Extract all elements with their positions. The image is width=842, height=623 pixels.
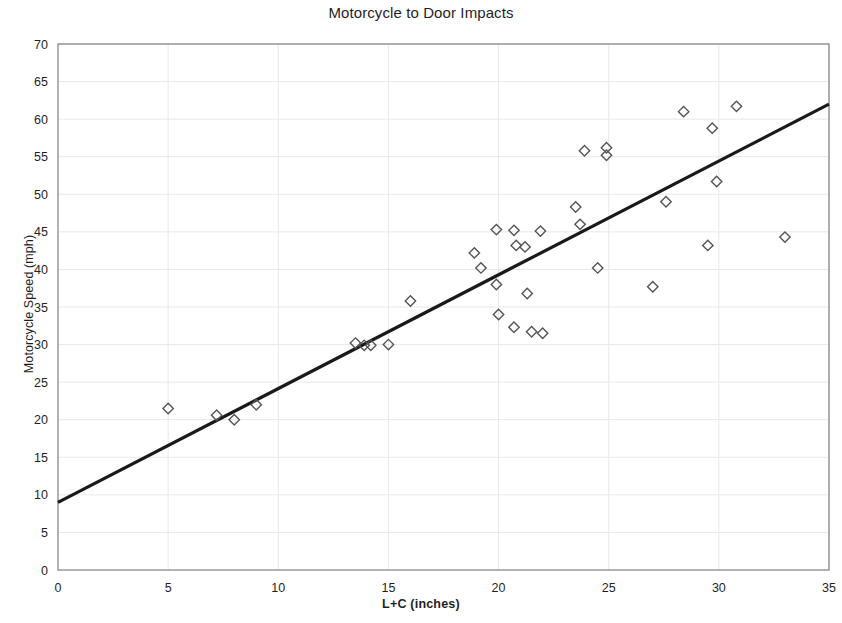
y-tick-label: 50 <box>34 188 48 202</box>
y-tick-label: 30 <box>34 338 48 352</box>
y-tick-label: 15 <box>34 451 48 465</box>
y-tick-label: 25 <box>34 376 48 390</box>
data-point-marker <box>526 327 536 337</box>
data-point-marker <box>491 224 501 234</box>
data-point-marker <box>491 279 501 289</box>
x-tick-label: 5 <box>165 581 172 595</box>
data-point-marker <box>711 176 721 186</box>
data-point-marker <box>469 248 479 258</box>
data-point-marker <box>678 106 688 116</box>
data-point-marker <box>522 288 532 298</box>
y-tick-label: 65 <box>34 75 48 89</box>
data-point-marker <box>537 328 547 338</box>
chart-container: Motorcycle to Door Impacts 0510152025303… <box>0 0 842 623</box>
data-point-marker <box>579 146 589 156</box>
data-point-marker <box>535 226 545 236</box>
x-tick-label: 10 <box>271 581 285 595</box>
trendline-path <box>58 104 829 502</box>
y-tick-label: 10 <box>34 488 48 502</box>
data-point-marker <box>780 232 790 242</box>
y-tick-label: 20 <box>34 413 48 427</box>
data-point-marker <box>509 322 519 332</box>
x-axis-label: L+C (inches) <box>0 597 842 611</box>
x-tick-label: 30 <box>712 581 726 595</box>
data-point-marker <box>405 296 415 306</box>
y-tick-label: 55 <box>34 150 48 164</box>
grid-lines <box>58 44 829 570</box>
x-tick-label: 15 <box>381 581 395 595</box>
data-point-marker <box>707 123 717 133</box>
x-tick-label: 25 <box>602 581 616 595</box>
y-tick-label: 35 <box>34 301 48 315</box>
x-tick-label: 0 <box>55 581 62 595</box>
y-tick-label: 70 <box>34 38 48 52</box>
data-point-marker <box>593 263 603 273</box>
y-tick-label: 5 <box>41 526 48 540</box>
data-point-marker <box>601 150 611 160</box>
y-axis-label: Motorcycle Speed (mph) <box>22 154 36 454</box>
y-tick-label: 45 <box>34 225 48 239</box>
data-point-marker <box>570 202 580 212</box>
data-point-marker <box>476 263 486 273</box>
data-point-marker <box>601 142 611 152</box>
y-tick-label: 60 <box>34 113 48 127</box>
x-tick-label: 35 <box>822 581 836 595</box>
x-axis-ticks: 05101520253035 <box>55 581 836 595</box>
trendline <box>58 104 829 502</box>
data-points <box>163 101 790 425</box>
data-point-marker <box>661 197 671 207</box>
y-tick-label: 0 <box>41 564 48 578</box>
data-point-marker <box>575 219 585 229</box>
y-tick-label: 40 <box>34 263 48 277</box>
data-point-marker <box>648 282 658 292</box>
y-axis-ticks: 0510152025303540455055606570 <box>34 38 48 578</box>
data-point-marker <box>511 240 521 250</box>
x-tick-label: 20 <box>492 581 506 595</box>
data-point-marker <box>509 225 519 235</box>
data-point-marker <box>520 242 530 252</box>
data-point-marker <box>703 240 713 250</box>
scatter-plot: 05101520253035 0510152025303540455055606… <box>0 0 842 623</box>
data-point-marker <box>731 101 741 111</box>
